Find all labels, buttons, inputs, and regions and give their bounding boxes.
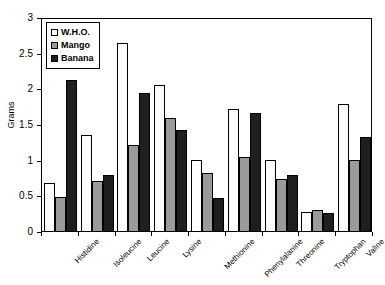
x-tick-mark: [372, 232, 373, 236]
legend-swatch-icon: [51, 55, 58, 62]
y-tick-label: 1.5: [0, 120, 33, 130]
y-tick-label: 0: [0, 227, 33, 237]
x-axis-label: Isoleucine: [111, 237, 143, 269]
legend-item: Mango: [51, 39, 94, 52]
x-tick-mark: [262, 232, 263, 236]
y-tick-label: 3: [0, 13, 33, 23]
legend-swatch-icon: [51, 29, 58, 36]
x-tick-mark: [225, 232, 226, 236]
x-tick-mark: [298, 232, 299, 236]
bar: [360, 137, 371, 231]
y-tick-label: 2: [0, 84, 33, 94]
bar: [265, 160, 276, 231]
bar-group: [116, 19, 153, 231]
x-tick-mark: [78, 232, 79, 236]
x-tick-mark: [335, 232, 336, 236]
legend-swatch-icon: [51, 42, 58, 49]
bar: [202, 173, 213, 231]
bar-group: [263, 19, 300, 231]
x-tick-mark: [151, 232, 152, 236]
x-tick-mark: [115, 232, 116, 236]
bar: [154, 85, 165, 231]
bar: [276, 179, 287, 231]
y-tick-label: 1: [0, 156, 33, 166]
bar: [139, 93, 150, 231]
bar: [128, 145, 139, 231]
bar: [176, 130, 187, 231]
bar: [287, 175, 298, 231]
bar: [103, 175, 114, 231]
bar-group: [152, 19, 189, 231]
bar: [239, 157, 250, 231]
x-axis-label: Tryptophan: [333, 237, 368, 272]
bar-group: [336, 19, 373, 231]
bar: [323, 213, 334, 231]
bar: [228, 109, 239, 231]
bar: [55, 197, 66, 231]
bar: [66, 80, 77, 231]
bar: [81, 135, 92, 231]
legend-item: Banana: [51, 52, 94, 65]
bar: [213, 198, 224, 231]
x-axis-label: Leucine: [146, 237, 172, 263]
bar: [165, 118, 176, 231]
bar: [250, 113, 261, 231]
bar-chart: Grams 00.511.522.53 HistidineIsoleucineL…: [0, 0, 385, 285]
bar-group: [226, 19, 263, 231]
bar: [191, 160, 202, 231]
x-axis-label: Histidine: [73, 237, 101, 265]
bar: [349, 160, 360, 231]
x-axis-label: Valine: [364, 237, 385, 259]
bar: [44, 183, 55, 231]
x-axis-label: Methionine: [222, 237, 256, 271]
y-tick-label: 2.5: [0, 49, 33, 59]
x-tick-mark: [41, 232, 42, 236]
bar: [301, 212, 312, 231]
x-axis-label: Lysine: [181, 237, 204, 260]
bar: [312, 210, 323, 231]
y-tick-label: 0.5: [0, 191, 33, 201]
bar-group: [189, 19, 226, 231]
x-tick-mark: [188, 232, 189, 236]
legend-label: Banana: [61, 54, 94, 63]
bar-group: [299, 19, 336, 231]
bar: [338, 104, 349, 231]
legend-label: W.H.O.: [61, 28, 90, 37]
bar: [92, 181, 103, 231]
legend-item: W.H.O.: [51, 26, 94, 39]
bar: [117, 43, 128, 231]
legend-label: Mango: [61, 41, 90, 50]
chart-legend: W.H.O.MangoBanana: [46, 22, 100, 69]
